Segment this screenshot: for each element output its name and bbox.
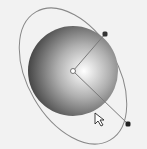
bottom-handle[interactable] [126, 122, 131, 127]
sphere-diagram [0, 0, 147, 149]
top-handle[interactable] [103, 32, 108, 37]
mouse-cursor-icon [95, 113, 104, 126]
center-point-icon[interactable] [71, 69, 76, 74]
